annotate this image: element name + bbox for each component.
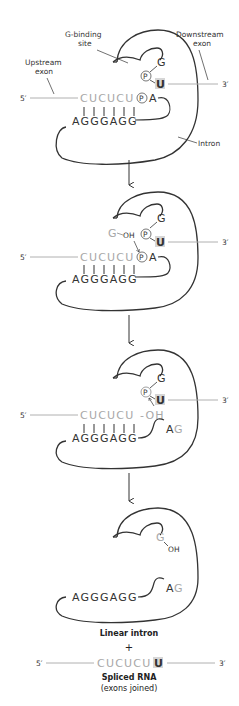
incoming-g: G [108,227,118,240]
intron-pairing-seq: AGGGAGG [72,115,138,128]
exon-hydroxyl: -OH [140,409,165,422]
downstream-pointer [199,50,208,80]
intron-label: Intron [198,139,220,148]
upstream-exon-label-1: Upstream [25,58,62,67]
terminal-g: G [157,56,167,69]
linear-intron-label: Linear intron [100,629,159,638]
adenine-2: A [149,251,158,264]
downstream-exon-label-1: Downstream [176,30,224,39]
three-prime-label-4: 3′ [219,659,226,668]
spliced-u: U [154,657,164,670]
intron-pairing-seq-2: AGGGAGG [72,273,138,286]
phosphate-label-4: P [139,253,144,262]
downstream-u-2: U [156,236,166,249]
step-4-products: G OH AGGGAGG A G Linear intron + 5′ CUCU… [36,508,226,693]
g-binding-site-label-1: G-binding [65,30,102,39]
upstream-exon-label-2: exon [35,67,53,76]
exons-joined-label: (exons joined) [101,684,158,693]
group-i-intron-splicing-diagram: G-binding site Downstream exon Upstream … [0,0,239,706]
plus-sign: + [125,642,133,653]
ag-g: G [174,423,184,436]
attack-arrow-1 [134,241,139,252]
terminal-g-3: G [157,372,167,385]
phosphate-label-5: P [143,388,148,397]
g-binding-pointer [97,50,128,63]
attack-arrow-2 [149,398,154,406]
hydroxyl: OH [123,231,135,240]
intron-pairing-seq-4: AGGGAGG [72,591,138,604]
three-prime-label-3: 3′ [222,396,229,405]
ag-g-2: G [174,582,184,595]
upstream-exon-seq-2: CUCUCU [80,251,134,264]
five-prime-label-2: 5′ [20,253,27,262]
phosphate-label: P [139,94,144,103]
downstream-exon-label-2: exon [193,39,211,48]
step-3-exon-attack: G P U 3′ 5′ CUCUCU -OH AGGGAGG A G [20,350,229,469]
downstream-u: U [156,78,166,91]
spliced-rna-label: Spliced RNA [102,673,158,682]
upstream-pointer [47,78,54,94]
adenine: A [149,92,158,105]
five-prime-label: 5′ [20,94,27,103]
terminal-g-2: G [157,212,167,225]
downstream-u-3: U [156,394,166,407]
step-1-initial-complex: G-binding site Downstream exon Upstream … [20,30,229,164]
three-prime-label: 3′ [222,80,229,89]
three-prime-label-2: 3′ [222,238,229,247]
intron-pairing-seq-3: AGGGAGG [72,432,138,445]
five-prime-label-4: 5′ [36,659,43,668]
phosphate-label-3: P [143,230,148,239]
five-prime-label-3: 5′ [20,411,27,420]
bound-g-hydroxyl: OH [168,545,180,554]
upstream-exon-seq-3: CUCUCU [80,409,134,422]
upstream-exon-seq: CUCUCU [80,92,134,105]
phosphate-label-2: P [143,72,148,81]
spliced-seq: CUCUCU [97,657,151,670]
g-binding-site-label-2: site [78,39,92,48]
step-2-guanosine-attack: G OH G P U 3′ 5′ CUCUCU P A AGGGAGG [20,192,229,311]
